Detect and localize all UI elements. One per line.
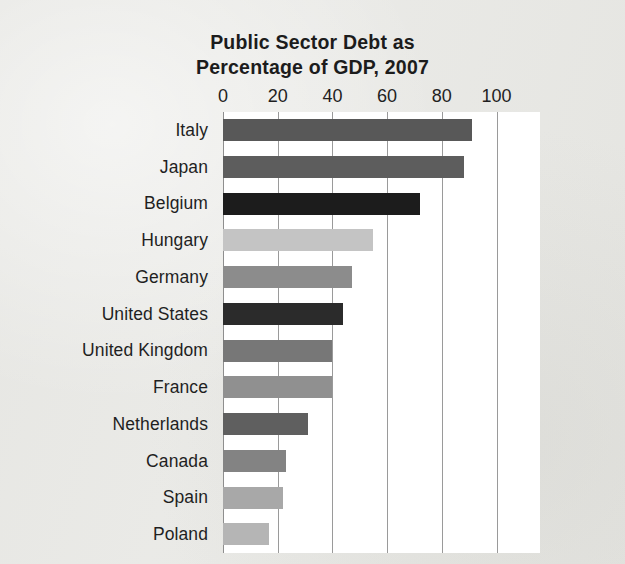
x-tick-label-80: 80 [432,86,452,107]
x-tick-label-40: 40 [322,86,342,107]
category-label-row: United Kingdom [0,333,216,370]
category-label-row: Hungary [0,222,216,259]
category-label-row: Japan [0,149,216,186]
bar-row [223,480,540,517]
category-label-row: United States [0,296,216,333]
bar-united-states [223,303,343,325]
plot-area-wrapper [223,112,540,553]
category-label-row: France [0,369,216,406]
bar-row [223,333,540,370]
bar-japan [223,156,464,178]
bar-row [223,443,540,480]
bar-spain [223,487,283,509]
chart-title-line-2: Percentage of GDP, 2007 [0,55,625,80]
bar-canada [223,450,286,472]
category-label-canada: Canada [146,451,216,472]
x-tick-label-0: 0 [218,86,228,107]
category-label-row: Netherlands [0,406,216,443]
category-label-japan: Japan [160,157,216,178]
bar-united-kingdom [223,340,332,362]
chart-title: Public Sector Debt as Percentage of GDP,… [0,30,625,80]
bar-chart-figure: Public Sector Debt as Percentage of GDP,… [0,0,625,564]
bar-row [223,516,540,553]
bar-row [223,369,540,406]
category-label-spain: Spain [163,487,216,508]
category-label-hungary: Hungary [141,230,216,251]
bar-row [223,406,540,443]
x-axis-tick-labels: 020406080100 [223,86,540,110]
bar-row [223,296,540,333]
bar-poland [223,523,269,545]
category-label-poland: Poland [153,524,216,545]
y-axis-category-labels: ItalyJapanBelgiumHungaryGermanyUnited St… [0,112,216,553]
bar-netherlands [223,413,308,435]
category-label-row: Spain [0,480,216,517]
category-label-row: Canada [0,443,216,480]
bar-row [223,222,540,259]
x-tick-label-20: 20 [268,86,288,107]
bar-row [223,112,540,149]
x-tick-label-60: 60 [377,86,397,107]
category-label-italy: Italy [175,120,216,141]
bar-row [223,186,540,223]
bar-hungary [223,229,373,251]
bar-belgium [223,193,420,215]
category-label-france: France [153,377,216,398]
bar-row [223,259,540,296]
category-label-belgium: Belgium [144,193,216,214]
category-label-row: Germany [0,259,216,296]
bar-row [223,149,540,186]
category-label-row: Poland [0,516,216,553]
category-label-row: Italy [0,112,216,149]
chart-title-line-1: Public Sector Debt as [0,30,625,55]
category-label-united-kingdom: United Kingdom [82,340,216,361]
category-label-row: Belgium [0,186,216,223]
category-label-germany: Germany [135,267,216,288]
bars-layer [223,112,540,553]
category-label-united-states: United States [102,304,216,325]
category-label-netherlands: Netherlands [113,414,216,435]
bar-italy [223,119,472,141]
bar-france [223,376,332,398]
x-tick-label-100: 100 [481,86,511,107]
bar-germany [223,266,352,288]
